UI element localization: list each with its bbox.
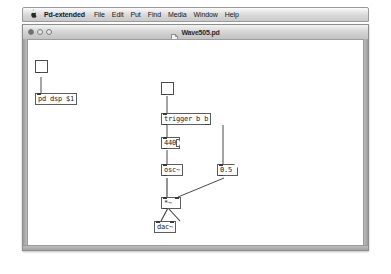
inlet-nub-right — [170, 221, 174, 223]
inlet-nub-right — [175, 197, 179, 199]
outlet-nub — [219, 175, 223, 177]
canvas-left-gutter — [23, 39, 28, 250]
outlet-nub — [163, 148, 167, 150]
amplitude-number-box[interactable]: 0.5 — [217, 164, 238, 176]
amplitude-value: 0.5 — [220, 166, 232, 174]
title-group: Wave505.pd — [23, 25, 368, 39]
pd-dsp-object[interactable]: pd dsp $1 — [35, 93, 77, 105]
document-icon — [171, 28, 178, 36]
outlet-nub — [163, 208, 167, 210]
frequency-value: 440 — [164, 139, 176, 147]
apple-logo-icon[interactable] — [28, 9, 38, 20]
zoom-button[interactable] — [46, 29, 52, 35]
trigger-label: trigger b b — [164, 115, 208, 123]
mac-menu-bar: Pd-extended File Edit Put Find Media Win… — [22, 7, 369, 22]
close-button[interactable] — [28, 29, 34, 35]
inlet-nub-left — [156, 221, 160, 223]
menu-item-media[interactable]: Media — [168, 10, 187, 19]
inlet-nub — [163, 164, 167, 166]
menu-item-file[interactable]: File — [94, 10, 105, 19]
dac-label: dac~ — [157, 223, 173, 231]
menu-app-name[interactable]: Pd-extended — [44, 10, 85, 19]
osc-object[interactable]: osc~ — [161, 164, 183, 176]
vertical-scrollbar[interactable] — [363, 39, 368, 250]
desktop-backdrop: Pd-extended File Edit Put Find Media Win… — [0, 0, 391, 274]
inlet-nub — [37, 93, 41, 95]
outlet-nub — [162, 94, 166, 96]
dac-object[interactable]: dac~ — [154, 221, 176, 233]
multiply-object[interactable]: *~ — [161, 197, 181, 209]
multiply-label: *~ — [164, 199, 172, 207]
minimize-button[interactable] — [37, 29, 43, 35]
bang-toggle[interactable] — [161, 82, 174, 95]
window-controls — [28, 29, 52, 35]
pd-dsp-label: pd dsp $1 — [38, 95, 74, 103]
connection-cords — [23, 40, 368, 251]
patch-canvas[interactable]: pd dsp $1 trigger b b 440 osc~ — [23, 40, 368, 251]
dsp-toggle[interactable] — [35, 60, 48, 73]
inlet-nub — [163, 137, 167, 139]
inlet-nub — [219, 164, 223, 166]
osc-label: osc~ — [164, 166, 180, 174]
outlet-nub-left — [163, 124, 167, 126]
outlet-nub — [163, 175, 167, 177]
outlet-nub-right — [205, 124, 209, 126]
frequency-message-box[interactable]: 440 — [161, 137, 180, 149]
window-title: Wave505.pd — [181, 28, 219, 37]
inlet-nub — [163, 113, 167, 115]
menu-item-edit[interactable]: Edit — [112, 10, 124, 19]
menu-item-find[interactable]: Find — [148, 10, 161, 19]
inlet-nub-left — [163, 197, 167, 199]
trigger-object[interactable]: trigger b b — [161, 113, 211, 125]
menu-item-put[interactable]: Put — [130, 10, 140, 19]
window-titlebar[interactable]: Wave505.pd — [23, 25, 368, 40]
menu-item-window[interactable]: Window — [194, 10, 218, 19]
menu-item-help[interactable]: Help — [225, 10, 239, 19]
patch-window: Wave505.pd — [22, 24, 369, 251]
outlet-nub — [36, 72, 40, 74]
horizontal-scrollbar[interactable] — [23, 245, 368, 250]
